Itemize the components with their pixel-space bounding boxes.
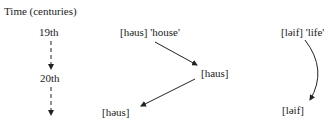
life-arrow xyxy=(305,40,318,100)
house-arrow-2 xyxy=(141,79,195,106)
house-arrow-1 xyxy=(155,42,197,65)
diagram-arrows xyxy=(0,0,336,126)
